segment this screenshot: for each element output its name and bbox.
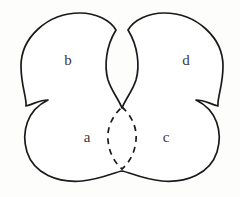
region-diagram-svg xyxy=(0,0,240,197)
region-label-c: c xyxy=(156,130,176,145)
cloverleaf-outline xyxy=(21,13,223,181)
region-label-b: b xyxy=(58,53,78,68)
region-label-d: d xyxy=(176,53,196,68)
figure-canvas: b d a c xyxy=(0,0,240,197)
region-label-a: a xyxy=(77,130,97,145)
